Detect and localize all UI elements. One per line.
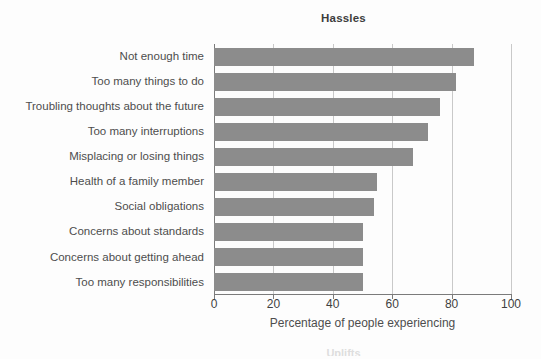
bar-row: Concerns about getting ahead bbox=[0, 245, 541, 270]
bar-rows: Not enough timeToo many things to doTrou… bbox=[0, 44, 541, 295]
bar bbox=[214, 148, 413, 166]
x-tick-label: 20 bbox=[267, 297, 280, 311]
x-tick-label: 40 bbox=[326, 297, 339, 311]
category-label: Misplacing or losing things bbox=[0, 151, 210, 163]
chart-title: Hassles bbox=[0, 12, 541, 24]
bar bbox=[214, 223, 363, 241]
bar bbox=[214, 73, 456, 91]
category-label: Too many interruptions bbox=[0, 126, 210, 138]
bar-track bbox=[214, 245, 511, 270]
bar bbox=[214, 248, 363, 266]
bar-row: Troubling thoughts about the future bbox=[0, 94, 541, 119]
bar-track bbox=[214, 270, 511, 295]
bar-track bbox=[214, 195, 511, 220]
category-label: Not enough time bbox=[0, 51, 210, 63]
bar-track bbox=[214, 119, 511, 144]
category-label: Too many responsibilities bbox=[0, 277, 210, 289]
bar-row: Health of a family member bbox=[0, 170, 541, 195]
bar bbox=[214, 198, 374, 216]
bar bbox=[214, 98, 440, 116]
bar-row: Not enough time bbox=[0, 44, 541, 69]
bar-track bbox=[214, 69, 511, 94]
category-label: Concerns about standards bbox=[0, 226, 210, 238]
bar bbox=[214, 173, 377, 191]
bar-row: Too many things to do bbox=[0, 69, 541, 94]
category-label: Too many things to do bbox=[0, 76, 210, 88]
bar-row: Concerns about standards bbox=[0, 220, 541, 245]
next-figure-clipped-title: Uplifts bbox=[0, 348, 541, 356]
x-tick-label: 0 bbox=[211, 297, 218, 311]
bar bbox=[214, 48, 474, 66]
category-label: Troubling thoughts about the future bbox=[0, 101, 210, 113]
bar-track bbox=[214, 144, 511, 169]
category-label: Social obligations bbox=[0, 201, 210, 213]
bar-track bbox=[214, 220, 511, 245]
x-axis-title: Percentage of people experiencing bbox=[214, 316, 511, 330]
bar bbox=[214, 273, 363, 291]
x-tick-label: 100 bbox=[501, 297, 521, 311]
bar-chart-figure: Hassles Not enough timeToo many things t… bbox=[0, 0, 541, 359]
category-label: Concerns about getting ahead bbox=[0, 252, 210, 264]
bar-row: Social obligations bbox=[0, 195, 541, 220]
bar-row: Too many interruptions bbox=[0, 119, 541, 144]
bar-track bbox=[214, 44, 511, 69]
bar-row: Too many responsibilities bbox=[0, 270, 541, 295]
category-label: Health of a family member bbox=[0, 176, 210, 188]
bar bbox=[214, 123, 428, 141]
bar-track bbox=[214, 170, 511, 195]
x-tick-label: 80 bbox=[445, 297, 458, 311]
x-tick-label: 60 bbox=[386, 297, 399, 311]
bar-row: Misplacing or losing things bbox=[0, 144, 541, 169]
bar-track bbox=[214, 94, 511, 119]
